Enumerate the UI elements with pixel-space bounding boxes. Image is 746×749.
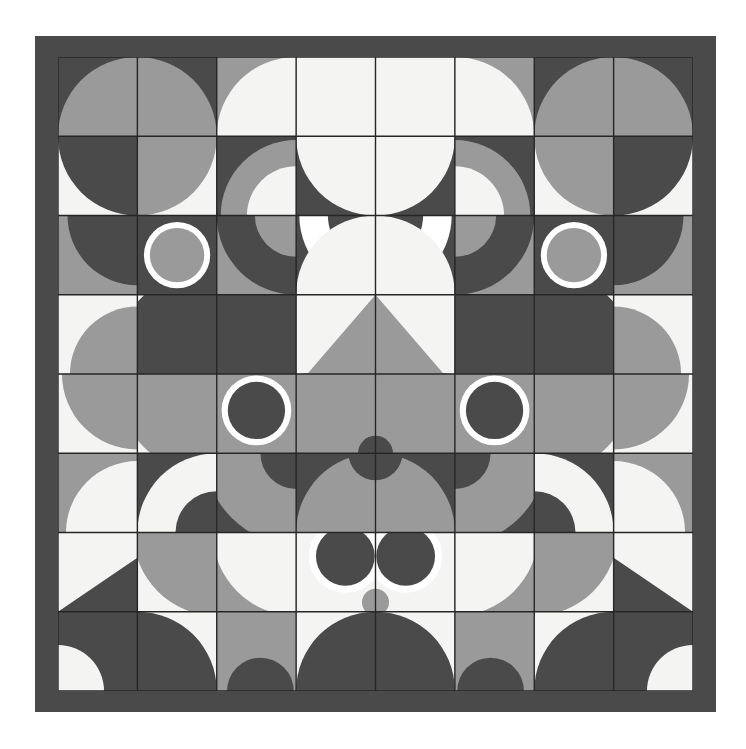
grid-tile bbox=[455, 374, 534, 453]
grid-tile bbox=[376, 57, 455, 136]
artboard bbox=[0, 0, 746, 749]
tile-grid-svg bbox=[58, 57, 693, 691]
grid-tile bbox=[217, 612, 296, 691]
grid-tile bbox=[58, 533, 137, 612]
grid-tile bbox=[614, 533, 693, 612]
grid-tile bbox=[296, 57, 375, 136]
tile-background bbox=[296, 57, 375, 136]
circle-shape bbox=[376, 527, 435, 586]
grid-tile bbox=[137, 216, 216, 295]
grid-tile bbox=[217, 374, 296, 453]
tile-background bbox=[376, 57, 455, 136]
grid-tile bbox=[455, 612, 534, 691]
grid-tile bbox=[614, 612, 693, 691]
tile-grid bbox=[58, 57, 693, 691]
circle-shape bbox=[316, 527, 375, 586]
grid-tile bbox=[58, 612, 137, 691]
ring-inner-shape bbox=[547, 228, 601, 282]
ring-inner-shape bbox=[466, 382, 523, 439]
ring-inner-shape bbox=[228, 382, 285, 439]
ring-inner-shape bbox=[150, 228, 204, 282]
grid-tile bbox=[534, 216, 613, 295]
